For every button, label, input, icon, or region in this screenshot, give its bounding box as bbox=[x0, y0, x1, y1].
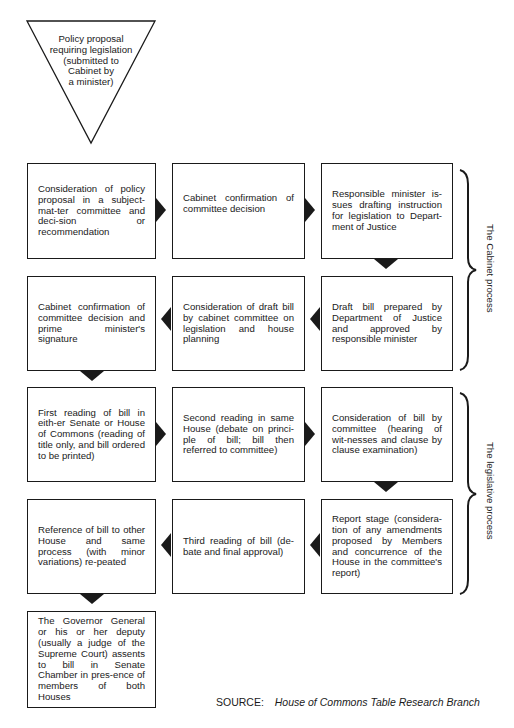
start-node-text: Policy proposal requiring legislation (s… bbox=[40, 34, 142, 88]
source-citation: SOURCE: House of Commons Table Research … bbox=[216, 696, 480, 708]
step-box-8: Second reading in same House (debate on … bbox=[172, 387, 305, 482]
step-box-6: Cabinet confirmation of committee decisi… bbox=[27, 276, 156, 371]
source-label: SOURCE: bbox=[216, 696, 264, 708]
step-text: Consideration of draft bill by cabinet c… bbox=[183, 302, 294, 345]
source-value: House of Commons Table Research Branch bbox=[275, 696, 480, 708]
step-text: First reading of bill in eith-er Senate … bbox=[38, 408, 145, 462]
arrow-down-icon bbox=[80, 371, 104, 381]
step-box-9: Consideration of bill by committee (hear… bbox=[321, 387, 453, 482]
step-box-4: Draft bill prepared by Department of Jus… bbox=[321, 276, 453, 371]
arrow-left-icon bbox=[161, 307, 171, 331]
step-box-2: Cabinet confirmation of committee decisi… bbox=[172, 163, 305, 259]
step-text: Consideration of policy proposal in a su… bbox=[38, 184, 145, 238]
arrow-right-icon bbox=[305, 198, 315, 222]
legislative-process-label: The legislative process bbox=[485, 442, 496, 540]
legislative-process-flowchart: Policy proposal requiring legislation (s… bbox=[0, 0, 514, 728]
start-line: a minister) bbox=[40, 77, 142, 88]
step-text: Draft bill prepared by Department of Jus… bbox=[332, 302, 442, 345]
step-text: Report stage (considera-tion of any amen… bbox=[332, 514, 442, 579]
step-text: Third reading of bill (de-bate and final… bbox=[183, 536, 294, 558]
step-box-1: Consideration of policy proposal in a su… bbox=[27, 163, 156, 259]
arrow-left-icon bbox=[310, 307, 320, 331]
step-text: Second reading in same House (debate on … bbox=[183, 413, 294, 456]
arrow-right-icon bbox=[156, 422, 166, 446]
start-line: requiring legislation bbox=[40, 45, 142, 56]
step-text: Consideration of bill by committee (hear… bbox=[332, 413, 442, 456]
step-box-11: Third reading of bill (de-bate and final… bbox=[172, 499, 305, 594]
arrow-left-icon bbox=[310, 533, 320, 557]
legislative-process-brace bbox=[460, 393, 476, 594]
step-box-13: The Governor General or his or her deput… bbox=[27, 611, 156, 708]
step-text: Reference of bill to other House and sam… bbox=[38, 525, 145, 568]
step-box-5: Consideration of draft bill by cabinet c… bbox=[172, 276, 305, 371]
arrow-down-icon bbox=[374, 482, 398, 492]
step-text: Cabinet confirmation of committee decisi… bbox=[38, 302, 145, 345]
step-box-7: First reading of bill in eith-er Senate … bbox=[27, 387, 156, 482]
step-text: The Governor General or his or her deput… bbox=[38, 616, 145, 702]
step-box-10: Report stage (considera-tion of any amen… bbox=[321, 499, 453, 594]
arrow-right-icon bbox=[156, 198, 166, 222]
step-box-12: Reference of bill to other House and sam… bbox=[27, 499, 156, 594]
step-box-3: Responsible minister is-sues drafting in… bbox=[321, 163, 453, 259]
step-text: Cabinet confirmation of committee decisi… bbox=[183, 193, 294, 215]
arrow-down-icon bbox=[80, 594, 104, 604]
arrow-down-icon bbox=[374, 259, 398, 269]
cabinet-process-label: The Cabinet process bbox=[485, 224, 496, 313]
step-text: Responsible minister is-sues drafting in… bbox=[332, 189, 442, 232]
arrow-right-icon bbox=[305, 422, 315, 446]
cabinet-process-brace bbox=[460, 170, 476, 370]
arrow-left-icon bbox=[161, 533, 171, 557]
